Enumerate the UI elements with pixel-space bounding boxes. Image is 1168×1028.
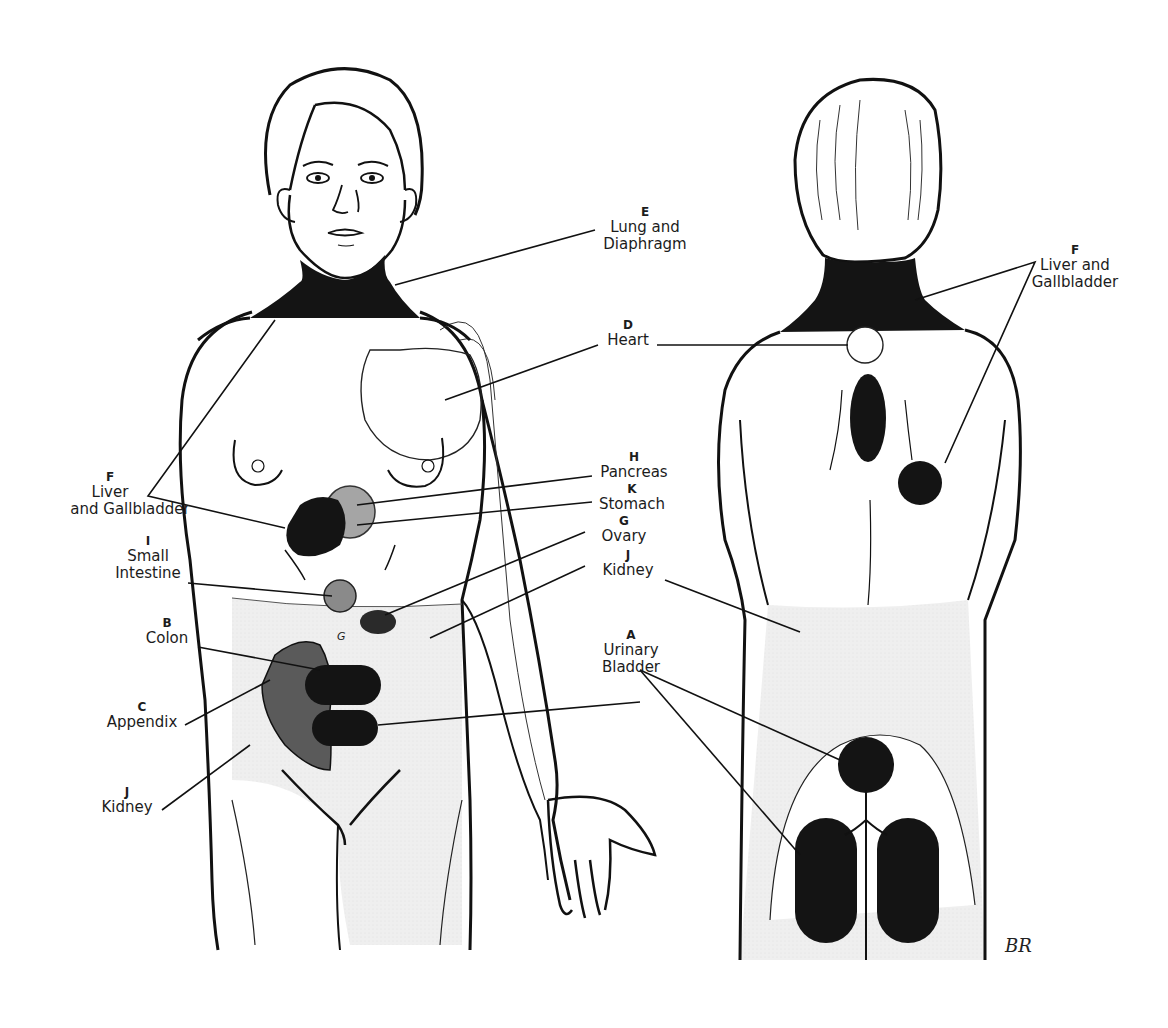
label-letter: D <box>598 318 658 332</box>
label-name: Urinary <box>596 642 666 659</box>
front-hair <box>266 69 423 215</box>
label-name: Pancreas <box>594 464 674 481</box>
artist-signature: BR <box>1005 935 1032 956</box>
liver-gallbladder-zone <box>286 497 345 556</box>
label-name: Lung and <box>595 219 695 236</box>
label-lung-diaphragm: E Lung and Diaphragm <box>595 205 695 253</box>
label-letter: F <box>5 470 215 484</box>
label-name: Liver <box>5 484 215 501</box>
label-letter: J <box>596 548 660 562</box>
front-view <box>180 69 655 950</box>
label-letter: J <box>95 785 159 799</box>
front-hand <box>548 797 655 918</box>
label-name: Kidney <box>95 799 159 816</box>
label-letter: F <box>1030 243 1120 257</box>
label-heart: D Heart <box>598 318 658 349</box>
label-ovary: G Ovary <box>594 514 654 545</box>
front-lower-shaded-area <box>232 598 462 945</box>
label-colon: B Colon <box>135 616 199 647</box>
back-kidney-zone-right <box>877 818 939 943</box>
ovary-zone <box>360 610 396 634</box>
label-name: Stomach <box>594 496 670 513</box>
label-liver-gallbladder-back: F Liver and Gallbladder <box>1030 243 1120 291</box>
label-appendix: C Appendix <box>100 700 184 731</box>
label-name: Kidney <box>596 562 660 579</box>
label-letter: G <box>594 514 654 528</box>
front-neck-shaded-region <box>250 255 420 318</box>
label-letter: B <box>135 616 199 630</box>
label-name: Colon <box>135 630 199 647</box>
label-letter: H <box>594 450 674 464</box>
label-kidney-front-right: J Kidney <box>596 548 660 579</box>
label-letter: K <box>594 482 670 496</box>
label-letter: A <box>596 628 666 642</box>
label-name: Diaphragm <box>595 236 695 253</box>
label-pancreas: H Pancreas <box>594 450 674 481</box>
back-view <box>719 79 1021 960</box>
back-neck-shaded-region <box>780 258 965 332</box>
back-liver-gallbladder-zone <box>898 461 942 505</box>
label-stomach: K Stomach <box>594 482 670 513</box>
label-liver-gallbladder-front: F Liver and Gallbladder <box>45 470 215 518</box>
colon-zone <box>305 665 381 705</box>
back-kidney-zone-left <box>795 818 857 943</box>
label-letter: I <box>110 534 186 548</box>
label-name: Liver and <box>1030 257 1120 274</box>
label-letter: C <box>100 700 184 714</box>
label-name: Heart <box>598 332 658 349</box>
back-heart-zone <box>847 327 883 363</box>
label-urinary-bladder: A Urinary Bladder <box>596 628 666 676</box>
label-letter: E <box>595 205 695 219</box>
back-spine-zone <box>850 374 886 462</box>
label-name: Appendix <box>100 714 184 731</box>
heart-referral-zone <box>361 348 481 460</box>
label-name: Ovary <box>594 528 654 545</box>
label-name: Small <box>110 548 186 565</box>
label-name: Bladder <box>596 659 666 676</box>
bladder-zone-front <box>312 710 378 746</box>
label-name: Gallbladder <box>1030 274 1120 291</box>
label-small-intestine: I Small Intestine <box>110 534 186 582</box>
small-g-mark: G <box>337 628 346 645</box>
label-kidney-front-left: J Kidney <box>95 785 159 816</box>
label-name: Intestine <box>110 565 186 582</box>
label-name: and Gallbladder <box>45 501 215 518</box>
back-bladder-zone <box>838 737 894 793</box>
referred-pain-diagram: E Lung and Diaphragm D Heart F Liver and… <box>0 0 1168 1028</box>
